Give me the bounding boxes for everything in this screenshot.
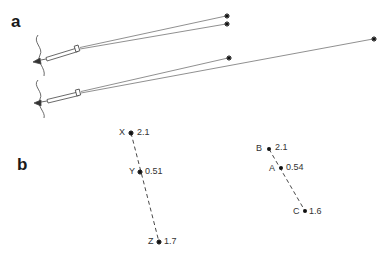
stimulation-points (225, 14, 376, 60)
point-b-icon (267, 147, 271, 151)
diagram-canvas (0, 0, 392, 264)
point-z-name: Z (148, 236, 154, 246)
point-c-icon (303, 209, 307, 213)
point-y-name: Y (129, 166, 135, 176)
point-c-name: C (293, 206, 300, 216)
tissue-boundary-icon (36, 80, 44, 118)
point-a-value: 0.54 (286, 162, 304, 172)
point-z-value: 1.7 (164, 236, 177, 246)
point-c-value: 1.6 (309, 206, 322, 216)
point-a-name: A (269, 163, 275, 173)
electrode-upper (33, 16, 226, 76)
point-x-value: 2.1 (137, 127, 150, 137)
point-x-name: X (119, 127, 125, 137)
dashed-line-bac (269, 149, 305, 211)
dashed-line-xyz (131, 133, 159, 242)
electrode-lower (34, 39, 373, 118)
point-y-value: 0.51 (145, 166, 163, 176)
point-a-icon (279, 166, 283, 170)
point-b-value: 2.1 (275, 142, 288, 152)
tissue-boundary-icon (36, 35, 44, 76)
point-b-name: B (256, 143, 262, 153)
